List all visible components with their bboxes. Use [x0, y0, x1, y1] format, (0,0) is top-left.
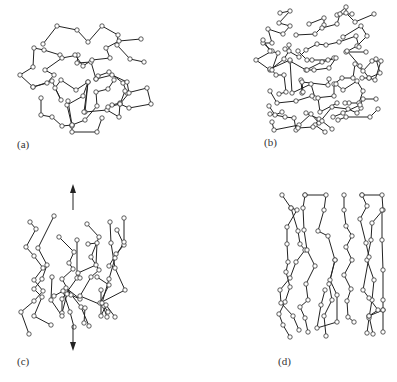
monomer-node [106, 310, 110, 314]
polymer-chain [362, 195, 383, 333]
monomer-node [376, 107, 380, 111]
monomer-node [279, 301, 283, 305]
monomer-node [315, 326, 319, 330]
monomer-node [285, 242, 289, 246]
monomer-node [298, 305, 302, 309]
monomer-node [277, 312, 281, 316]
monomer-node [41, 42, 45, 46]
monomer-node [344, 245, 348, 249]
monomer-node [316, 96, 320, 100]
monomer-node [361, 89, 365, 93]
monomer-node [306, 330, 310, 334]
monomer-node [305, 68, 309, 72]
monomer-node [60, 277, 64, 281]
monomer-node [288, 335, 292, 339]
monomer-node [346, 107, 350, 111]
panel-a [18, 24, 153, 134]
monomer-node [116, 33, 120, 37]
monomer-node [344, 115, 348, 119]
monomer-node [142, 60, 146, 64]
monomer-node [381, 308, 385, 312]
stretch-arrow-up [70, 184, 76, 210]
monomer-node [86, 40, 90, 44]
monomer-node [272, 128, 276, 132]
monomer-node [50, 115, 54, 119]
monomer-node [294, 33, 298, 37]
monomer-node [294, 260, 298, 264]
monomer-node [324, 43, 328, 47]
panel-b [254, 5, 383, 134]
polymer-chain [300, 195, 315, 332]
monomer-node [122, 216, 126, 220]
monomer-node [74, 88, 78, 92]
monomer-node [364, 50, 368, 54]
monomer-node [107, 264, 111, 268]
monomer-node [75, 28, 79, 32]
monomer-node [303, 193, 307, 197]
monomer-node [281, 323, 285, 327]
monomer-node [300, 80, 304, 84]
monomer-node [316, 229, 320, 233]
monomer-node [81, 64, 85, 68]
monomer-node [333, 258, 337, 262]
monomer-node [254, 58, 258, 62]
monomer-node [36, 246, 40, 250]
monomer-node [18, 73, 22, 77]
monomer-node [113, 256, 117, 260]
panel-d [277, 193, 385, 339]
monomer-node [282, 57, 286, 61]
monomer-node [268, 89, 272, 93]
monomer-node [319, 303, 323, 307]
monomer-node [24, 245, 28, 249]
monomer-node [301, 206, 305, 210]
monomer-node [59, 98, 63, 102]
monomer-node [99, 288, 103, 292]
monomer-node [323, 288, 327, 292]
monomer-node [330, 298, 334, 302]
monomer-node [45, 81, 49, 85]
monomer-node [60, 297, 64, 301]
monomer-node [368, 115, 372, 119]
monomer-node [288, 24, 292, 28]
monomer-node [123, 89, 127, 93]
monomer-node [50, 275, 54, 279]
monomer-node [32, 299, 36, 303]
monomer-node [95, 130, 99, 134]
monomer-node [83, 118, 87, 122]
monomer-node [344, 5, 348, 9]
monomer-node [295, 208, 299, 212]
monomer-node [270, 120, 274, 124]
monomer-node [50, 79, 54, 83]
monomer-node [280, 110, 284, 114]
monomer-node [107, 277, 111, 281]
monomer-node [326, 234, 330, 238]
monomer-node [374, 97, 378, 101]
monomer-node [42, 48, 46, 52]
monomer-node [322, 16, 326, 20]
monomer-node [97, 268, 101, 272]
monomer-node [49, 298, 53, 302]
monomer-node [350, 258, 354, 262]
monomer-node [118, 102, 122, 106]
monomer-node [344, 224, 348, 228]
monomer-node [117, 39, 121, 43]
monomer-node [360, 76, 364, 80]
monomer-node [367, 296, 371, 300]
monomer-node [41, 266, 45, 270]
monomer-node [358, 64, 362, 68]
monomer-node [310, 58, 314, 62]
monomer-node [43, 68, 47, 72]
polymer-chain [34, 216, 54, 325]
monomer-node [342, 208, 346, 212]
monomer-node [371, 332, 375, 336]
monomer-node [367, 314, 371, 318]
monomer-node [32, 278, 36, 282]
monomer-node [378, 71, 382, 75]
monomer-node [286, 260, 290, 264]
monomer-node [365, 331, 369, 335]
monomer-node [40, 295, 44, 299]
monomer-node [305, 58, 309, 62]
monomer-node [267, 104, 271, 108]
monomer-node [296, 126, 300, 130]
monomer-node [331, 115, 335, 119]
